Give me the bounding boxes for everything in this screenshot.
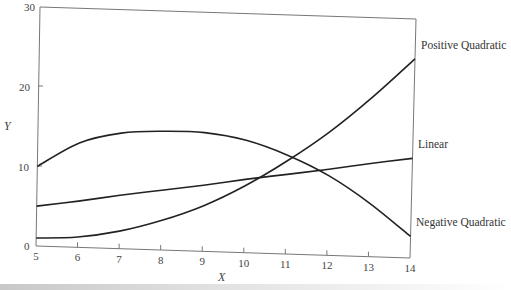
scan-edge-band xyxy=(0,284,511,290)
linear-line xyxy=(37,158,413,206)
series-label-negative-quadratic: Negative Quadratic xyxy=(416,216,506,229)
negative-quadratic-line xyxy=(37,131,410,236)
y-tick-label: 30 xyxy=(24,1,36,13)
x-tick-label: 10 xyxy=(238,257,250,269)
y-tick-label: 20 xyxy=(19,81,31,93)
x-tick-label: 6 xyxy=(75,251,81,263)
x-tick-label: 7 xyxy=(116,253,122,265)
x-tick-label: 11 xyxy=(280,258,291,270)
y-axis-title: Y xyxy=(4,119,12,133)
y-axis: 30 20 10 0 Y xyxy=(4,1,43,252)
x-tick-label: 13 xyxy=(363,261,375,273)
y-tick-label: 0 xyxy=(24,240,30,252)
line-chart: 30 20 10 0 Y 567891011121314 X Positive … xyxy=(0,0,511,290)
positive-quadratic-line xyxy=(36,59,415,238)
x-tick-label: 14 xyxy=(405,262,417,274)
x-tick-label: 12 xyxy=(321,259,332,271)
x-tick-label: 5 xyxy=(33,250,39,262)
x-tick-label: 9 xyxy=(199,255,205,267)
x-tick-label: 8 xyxy=(158,254,164,266)
series-label-positive-quadratic: Positive Quadratic xyxy=(421,39,506,51)
plot-frame xyxy=(36,7,416,258)
x-axis-title: X xyxy=(217,270,226,284)
y-tick-label: 10 xyxy=(18,161,30,173)
series-label-linear: Linear xyxy=(418,138,448,150)
